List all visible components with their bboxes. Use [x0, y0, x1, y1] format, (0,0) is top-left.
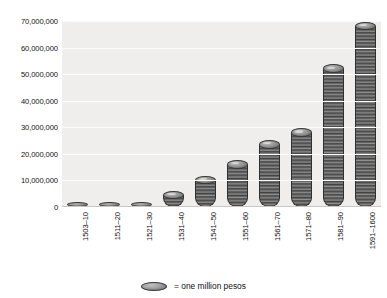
x-axis-tick-label: 1541–50	[209, 212, 218, 241]
gridline	[62, 154, 381, 155]
gridline	[62, 127, 381, 128]
bar-slot	[94, 21, 126, 207]
bar-slot	[158, 21, 190, 207]
y-axis-tick-label: 20,000,000	[21, 149, 58, 158]
coin-stack-bar	[291, 133, 312, 207]
legend-label: = one million pesos	[174, 281, 246, 291]
plot-area	[62, 21, 381, 207]
x-axis-tick-label: 1561–70	[273, 212, 282, 241]
y-axis-tick-label: 40,000,000	[21, 96, 58, 105]
bar-series	[62, 21, 381, 207]
coin-stack-bar	[227, 165, 248, 208]
coin-stack-bar-chart: 010,000,00020,000,00030,000,00040,000,00…	[0, 0, 387, 298]
coin-top-face	[163, 191, 184, 199]
x-axis-tick-label: 1581–90	[336, 212, 345, 241]
x-axis-tick-label: 1551–60	[241, 212, 250, 241]
coin-stack-bar	[323, 69, 344, 207]
gridline	[62, 101, 381, 102]
x-axis-tick-label: 1571–80	[304, 212, 313, 241]
bar-slot	[126, 21, 158, 207]
coin-top-face	[355, 22, 376, 30]
bar-slot	[222, 21, 254, 207]
y-axis: 010,000,00020,000,00030,000,00040,000,00…	[0, 0, 58, 228]
x-axis-tick-label: 1591–1600	[368, 212, 377, 249]
coin-top-face	[259, 140, 280, 148]
bar-slot	[317, 21, 349, 207]
bar-slot	[62, 21, 94, 207]
coin-top-face	[227, 160, 248, 168]
coin-top-face	[291, 128, 312, 136]
bar-slot	[349, 21, 381, 207]
y-axis-tick-label: 0	[54, 203, 58, 212]
axis-baseline	[62, 206, 381, 207]
bar-slot	[253, 21, 285, 207]
y-axis-tick-label: 60,000,000	[21, 43, 58, 52]
gridline	[62, 180, 381, 181]
y-axis-tick-label: 70,000,000	[21, 17, 58, 26]
y-axis-tick-label: 10,000,000	[21, 176, 58, 185]
x-axis-tick-label: 1503–10	[81, 212, 90, 241]
bar-slot	[190, 21, 222, 207]
x-axis: 1503–101511–201521–301531–401541–501551–…	[62, 210, 381, 282]
x-axis-tick-label: 1531–40	[177, 212, 186, 241]
y-axis-tick-label: 50,000,000	[21, 70, 58, 79]
y-axis-tick-label: 30,000,000	[21, 123, 58, 132]
gridline	[62, 21, 381, 22]
bar-slot	[285, 21, 317, 207]
gridline	[62, 74, 381, 75]
coin-stack-bar	[195, 180, 216, 207]
x-axis-tick-label: 1511–20	[113, 212, 122, 240]
coin-icon	[141, 282, 167, 291]
chart-legend: = one million pesos	[0, 281, 387, 291]
coin-top-face	[323, 64, 344, 72]
x-axis-tick-label: 1521–30	[145, 212, 154, 241]
gridline	[62, 48, 381, 49]
